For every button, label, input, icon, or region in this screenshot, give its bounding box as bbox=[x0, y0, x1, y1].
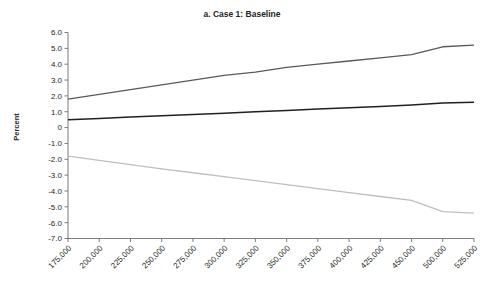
x-tick-label: 250,000 bbox=[140, 243, 167, 270]
x-axis-ticks: 175,000200,000225,000250,000275,000300,0… bbox=[47, 239, 480, 271]
x-tick-label: 375,000 bbox=[296, 243, 323, 270]
y-tick-label: -4.0 bbox=[48, 187, 62, 196]
y-tick-label: 4.0 bbox=[51, 60, 63, 69]
series-line-upper-band bbox=[68, 45, 474, 99]
y-tick-label: -5.0 bbox=[48, 203, 62, 212]
x-tick-label: 200,000 bbox=[78, 243, 105, 270]
x-tick-label: 525,000 bbox=[453, 243, 480, 270]
y-tick-label: 6.0 bbox=[51, 28, 63, 37]
x-tick-label: 350,000 bbox=[265, 243, 292, 270]
y-tick-label: 1.0 bbox=[51, 108, 63, 117]
y-tick-label: 3.0 bbox=[51, 76, 63, 85]
x-tick-label: 225,000 bbox=[109, 243, 136, 270]
y-tick-label: 2.0 bbox=[51, 92, 63, 101]
x-tick-label: 400,000 bbox=[328, 243, 355, 270]
y-axis-title: Percent bbox=[12, 113, 21, 141]
x-tick-label: 300,000 bbox=[203, 243, 230, 270]
y-tick-label: -2.0 bbox=[48, 155, 62, 164]
y-tick-label: 5.0 bbox=[51, 44, 63, 53]
series-line-central-estimate bbox=[68, 102, 474, 119]
y-tick-label: 0 bbox=[58, 123, 63, 132]
y-tick-label: -1.0 bbox=[48, 139, 62, 148]
series-line-lower-band bbox=[68, 156, 474, 213]
y-tick-label: -6.0 bbox=[48, 219, 62, 228]
x-tick-label: 175,000 bbox=[47, 243, 74, 270]
y-tick-label: -7.0 bbox=[48, 234, 62, 243]
x-tick-label: 425,000 bbox=[359, 243, 386, 270]
data-series-group bbox=[68, 45, 474, 213]
chart-title: a. Case 1: Baseline bbox=[203, 9, 280, 19]
y-axis-ticks: 6.05.04.03.02.01.00-1.0-2.0-3.0-4.0-5.0-… bbox=[48, 28, 68, 243]
y-tick-label: -3.0 bbox=[48, 171, 62, 180]
x-tick-label: 275,000 bbox=[172, 243, 199, 270]
line-chart-figure: a. Case 1: Baseline Percent 6.05.04.03.0… bbox=[0, 0, 484, 292]
x-tick-label: 450,000 bbox=[390, 243, 417, 270]
x-tick-label: 325,000 bbox=[234, 243, 261, 270]
x-tick-label: 500,000 bbox=[421, 243, 448, 270]
